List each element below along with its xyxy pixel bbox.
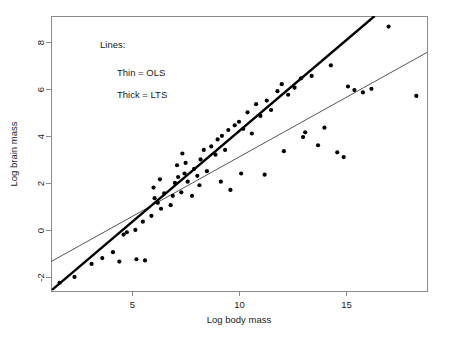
data-point [361, 90, 365, 94]
data-point [205, 169, 209, 173]
data-point [254, 102, 258, 106]
data-point [282, 149, 286, 153]
data-point [280, 82, 284, 86]
data-point [158, 177, 162, 181]
data-point [299, 76, 303, 80]
data-point [182, 171, 186, 175]
x-axis-label: Log body mass [207, 314, 272, 325]
data-point [198, 157, 202, 161]
data-points [57, 24, 418, 284]
data-point [228, 188, 232, 192]
data-point [263, 173, 267, 177]
plot-frame [52, 17, 428, 292]
data-point [149, 214, 153, 218]
data-point [171, 194, 175, 198]
data-point [57, 281, 61, 285]
data-point [303, 130, 307, 134]
y-axis-label: Log brain mass [8, 121, 19, 186]
chart-canvas: 51015 -202468 Log body mass Log brain ma… [0, 0, 451, 339]
data-point [175, 163, 179, 167]
data-point [190, 194, 194, 198]
data-point [156, 201, 160, 205]
y-tick-label: 2 [35, 181, 46, 186]
data-point [250, 131, 254, 135]
y-tick-label: 8 [35, 40, 46, 45]
data-point [329, 63, 333, 67]
data-point [133, 228, 137, 232]
data-point [180, 151, 184, 155]
regression-lines [51, 16, 427, 290]
data-point [220, 134, 224, 138]
data-point [310, 74, 314, 78]
data-point [117, 260, 121, 264]
y-tick-label: -2 [35, 273, 46, 281]
data-point [162, 191, 166, 195]
data-point [414, 94, 418, 98]
data-point [100, 256, 104, 260]
data-point [241, 127, 245, 131]
data-point [153, 196, 157, 200]
data-point [186, 180, 190, 184]
data-point [176, 175, 180, 179]
data-point [239, 171, 243, 175]
ols-regression-line [51, 52, 427, 261]
data-point [183, 161, 187, 165]
y-tick-label: 4 [35, 134, 46, 139]
data-point [346, 84, 350, 88]
data-point [169, 203, 173, 207]
data-point [265, 99, 269, 103]
data-point [269, 108, 273, 112]
data-point [322, 126, 326, 130]
data-point [143, 258, 147, 262]
data-point [275, 89, 279, 93]
data-point [292, 86, 296, 90]
data-point [226, 128, 230, 132]
x-tick-label: 10 [234, 299, 245, 310]
x-axis-ticks: 51015 [130, 291, 352, 310]
legend-entry-lts: Thick = LTS [117, 89, 167, 100]
data-point [216, 137, 220, 141]
x-tick-label: 15 [341, 299, 352, 310]
data-point [233, 123, 237, 127]
y-axis-ticks: -202468 [35, 40, 52, 282]
data-point [316, 143, 320, 147]
data-point [134, 257, 138, 261]
data-point [301, 135, 305, 139]
data-point [72, 275, 76, 279]
scatter-plot-figure: 51015 -202468 Log body mass Log brain ma… [0, 0, 451, 339]
data-point [159, 207, 163, 211]
y-tick-label: 6 [35, 87, 46, 92]
data-point [179, 190, 183, 194]
data-point [111, 250, 115, 254]
data-point [125, 230, 129, 234]
data-point [195, 174, 199, 178]
data-point [141, 220, 145, 224]
legend-entry-ols: Thin = OLS [117, 67, 165, 78]
data-point [202, 148, 206, 152]
legend-heading: Lines: [100, 39, 125, 50]
data-point [173, 181, 177, 185]
data-point [89, 262, 93, 266]
data-point [335, 150, 339, 154]
data-point [237, 120, 241, 124]
data-point [369, 87, 373, 91]
lts-regression-line [52, 16, 375, 290]
data-point [219, 180, 223, 184]
x-tick-label: 5 [130, 299, 135, 310]
data-point [386, 24, 390, 28]
data-point [245, 110, 249, 114]
data-point [151, 185, 155, 189]
data-point [286, 93, 290, 97]
data-point [352, 88, 356, 92]
y-tick-label: 0 [35, 228, 46, 233]
data-point [223, 148, 227, 152]
data-point [213, 153, 217, 157]
data-point [342, 155, 346, 159]
data-point [192, 167, 196, 171]
data-point [209, 144, 213, 148]
data-point [258, 114, 262, 118]
data-point [197, 183, 201, 187]
